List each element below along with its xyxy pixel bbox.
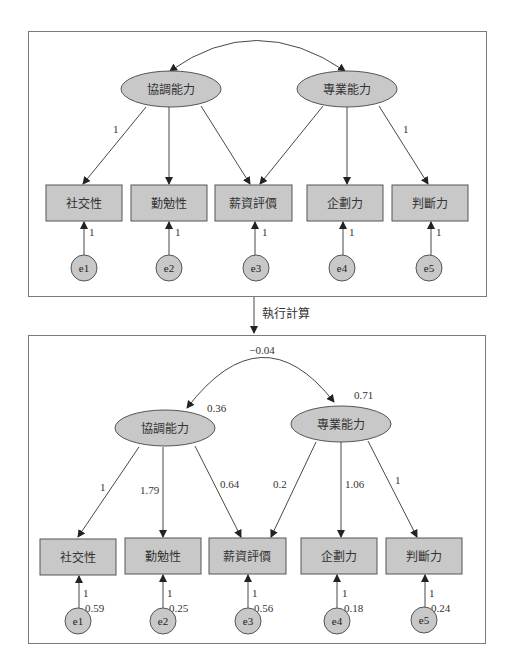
svg-text:e2: e2: [158, 615, 168, 627]
loading-value: 1: [113, 123, 119, 135]
svg-text:1: 1: [342, 587, 348, 599]
svg-text:薪資評價: 薪資評價: [223, 549, 271, 564]
observed-nodes-bottom: 社交性 勤勉性 薪資評價 企劃力 判斷力: [40, 538, 462, 575]
svg-text:e3: e3: [251, 262, 262, 274]
svg-text:1.06: 1.06: [345, 478, 365, 490]
variance-value: 0.36: [207, 402, 227, 414]
latent-coordination: 協調能力: [121, 71, 221, 107]
svg-text:社交性: 社交性: [66, 196, 102, 211]
svg-text:勤勉性: 勤勉性: [145, 550, 181, 564]
svg-text:1: 1: [262, 226, 268, 238]
svg-text:e3: e3: [243, 615, 254, 627]
svg-text:勤勉性: 勤勉性: [151, 197, 187, 211]
latent-professional: 專業能力: [291, 406, 391, 442]
svg-text:薪資評價: 薪資評價: [229, 196, 277, 211]
svg-text:0.2: 0.2: [273, 478, 287, 490]
covariance-value: −0.04: [249, 344, 275, 356]
svg-text:1: 1: [100, 481, 106, 493]
step-label: 執行計算: [262, 306, 310, 321]
latent-coordination: 協調能力: [115, 410, 215, 446]
svg-text:1: 1: [349, 226, 355, 238]
svg-text:1: 1: [167, 587, 173, 599]
svg-text:e1: e1: [79, 262, 89, 274]
sem-diagram: 協調能力 專業能力 1 1 社交性 勤勉性 薪資評價 企劃力 判斷力 1 1 1…: [0, 0, 512, 663]
svg-text:e1: e1: [73, 615, 83, 627]
svg-text:協調能力: 協調能力: [141, 421, 189, 436]
svg-text:企劃力: 企劃力: [321, 549, 357, 564]
svg-text:e4: e4: [337, 262, 348, 274]
svg-text:e5: e5: [419, 614, 430, 626]
observed-nodes-top: 社交性 勤勉性 薪資評價 企劃力 判斷力: [46, 185, 468, 221]
svg-text:1: 1: [83, 587, 89, 599]
svg-text:1: 1: [429, 587, 435, 599]
svg-text:專業能力: 專業能力: [317, 418, 365, 432]
latent-label: 專業能力: [323, 83, 371, 97]
svg-text:社交性: 社交性: [60, 550, 96, 565]
svg-text:企劃力: 企劃力: [327, 196, 363, 211]
latent-label: 協調能力: [147, 82, 195, 97]
svg-text:1.79: 1.79: [140, 484, 160, 496]
loading-value: 1: [403, 123, 409, 135]
svg-text:1: 1: [436, 226, 442, 238]
variance-value: 0.71: [354, 389, 373, 401]
svg-text:判斷力: 判斷力: [412, 197, 448, 211]
svg-text:1: 1: [252, 587, 258, 599]
svg-text:1: 1: [89, 226, 95, 238]
svg-text:1: 1: [395, 474, 401, 486]
svg-text:1: 1: [175, 226, 181, 238]
svg-text:e5: e5: [424, 262, 435, 274]
svg-text:e2: e2: [164, 262, 174, 274]
svg-text:判斷力: 判斷力: [406, 550, 442, 564]
svg-text:0.64: 0.64: [220, 478, 240, 490]
svg-text:e4: e4: [332, 615, 343, 627]
latent-professional: 專業能力: [297, 71, 397, 107]
